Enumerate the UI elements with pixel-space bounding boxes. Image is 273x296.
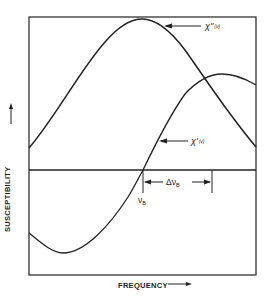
- arrowhead-icon: [159, 139, 167, 144]
- plot-frame: [29, 17, 256, 275]
- chi-prime-label: χ'(ν): [190, 136, 205, 146]
- chi-double-prime-label: χ''(ν): [204, 21, 221, 31]
- delta-nu-b-label: ΔνB: [166, 177, 180, 188]
- chi-prime-pointer: χ'(ν): [159, 136, 205, 146]
- susceptibility-diagram: χ''(ν) χ'(ν) ΔνB νB: [0, 0, 273, 296]
- linewidth-bracket: ΔνB: [143, 170, 212, 193]
- arrowhead-icon: [164, 24, 172, 29]
- arrowhead-icon: [204, 180, 211, 185]
- x-axis-label: FREQUENCY: [118, 281, 168, 290]
- y-axis-label: SUSCEPTIBILITY: [3, 167, 12, 232]
- chi-double-prime-pointer: χ''(ν): [164, 21, 221, 31]
- chi-double-prime-curve: [29, 19, 256, 148]
- arrowhead-icon: [144, 180, 151, 185]
- arrow-up-icon: [9, 103, 13, 109]
- arrow-right-icon: [186, 282, 192, 286]
- nu-b-label: νB: [138, 195, 146, 206]
